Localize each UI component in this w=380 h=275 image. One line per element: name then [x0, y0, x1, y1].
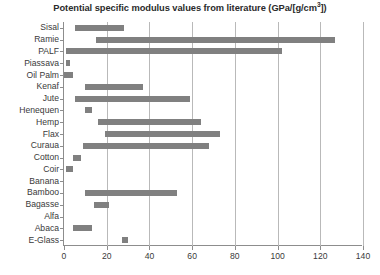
- y-tick-curaua: [60, 146, 64, 147]
- bar-cotton: [73, 155, 82, 161]
- bar-e-glass: [122, 237, 128, 243]
- x-tick-0: [64, 246, 65, 250]
- plot-area: 020406080100120140SisalRamiePALFPiassava…: [63, 22, 362, 246]
- x-axis-label-0: 0: [44, 251, 84, 261]
- x-tick-40: [149, 246, 150, 250]
- gridline-x-100: [278, 22, 279, 246]
- chart-title-tail: ]): [321, 3, 327, 13]
- bar-abaca: [73, 225, 92, 231]
- y-tick-abaca: [60, 228, 64, 229]
- y-axis-label-henequen: Henequen: [3, 105, 59, 115]
- bar-kenaf: [85, 84, 143, 90]
- y-axis-label-kenaf: Kenaf: [3, 81, 59, 91]
- y-axis-label-oil-palm: Oil Palm: [3, 70, 59, 80]
- y-tick-palf: [60, 51, 64, 52]
- bar-hemp: [98, 119, 201, 125]
- y-tick-alfa: [60, 217, 64, 218]
- x-tick-60: [192, 246, 193, 250]
- x-tick-80: [235, 246, 236, 250]
- x-axis-label-60: 60: [172, 251, 212, 261]
- y-axis-label-palf: PALF: [3, 46, 59, 56]
- y-axis-label-hemp: Hemp: [3, 117, 59, 127]
- y-tick-bamboo: [60, 193, 64, 194]
- gridline-x-80: [235, 22, 236, 246]
- bar-coir: [66, 166, 72, 172]
- y-axis-label-bamboo: Bamboo: [3, 187, 59, 197]
- bar-ramie: [96, 37, 335, 43]
- gridline-x-140: [363, 22, 364, 246]
- y-tick-banana: [60, 181, 64, 182]
- bar-flax: [105, 131, 220, 137]
- y-axis-label-bagasse: Bagasse: [3, 199, 59, 209]
- bar-oil-palm: [64, 72, 73, 78]
- bar-curaua: [83, 143, 209, 149]
- y-axis-label-coir: Coir: [3, 164, 59, 174]
- bar-palf: [66, 48, 282, 54]
- y-tick-jute: [60, 99, 64, 100]
- y-tick-bagasse: [60, 205, 64, 206]
- bar-henequen: [85, 107, 91, 113]
- bar-bamboo: [85, 190, 177, 196]
- chart-title: Potential specific modulus values from l…: [0, 3, 380, 13]
- y-tick-sisal: [60, 28, 64, 29]
- chart-container: Potential specific modulus values from l…: [0, 0, 380, 275]
- x-tick-20: [107, 246, 108, 250]
- y-tick-ramie: [60, 40, 64, 41]
- y-axis-label-flax: Flax: [3, 129, 59, 139]
- bar-bagasse: [94, 202, 109, 208]
- y-axis-label-piassava: Piassava: [3, 58, 59, 68]
- gridline-x-120: [320, 22, 321, 246]
- y-axis-label-ramie: Ramie: [3, 34, 59, 44]
- y-axis-label-sisal: Sisal: [3, 22, 59, 32]
- x-tick-120: [320, 246, 321, 250]
- y-tick-piassava: [60, 63, 64, 64]
- x-axis-label-20: 20: [87, 251, 127, 261]
- y-axis-label-jute: Jute: [3, 93, 59, 103]
- bar-piassava: [66, 60, 70, 66]
- y-tick-e-glass: [60, 240, 64, 241]
- y-axis-label-alfa: Alfa: [3, 211, 59, 221]
- x-axis-label-100: 100: [258, 251, 298, 261]
- y-axis-label-curaua: Curaua: [3, 140, 59, 150]
- x-axis-label-140: 140: [343, 251, 380, 261]
- y-tick-henequen: [60, 110, 64, 111]
- y-axis-label-abaca: Abaca: [3, 223, 59, 233]
- y-axis-label-banana: Banana: [3, 176, 59, 186]
- y-tick-coir: [60, 169, 64, 170]
- y-axis-label-cotton: Cotton: [3, 152, 59, 162]
- bar-jute: [75, 96, 190, 102]
- y-axis-label-e-glass: E-Glass: [3, 235, 59, 245]
- x-axis-label-80: 80: [215, 251, 255, 261]
- y-tick-cotton: [60, 158, 64, 159]
- x-tick-100: [278, 246, 279, 250]
- x-axis-label-40: 40: [129, 251, 169, 261]
- bar-sisal: [75, 25, 124, 31]
- y-tick-kenaf: [60, 87, 64, 88]
- x-tick-140: [363, 246, 364, 250]
- y-tick-hemp: [60, 122, 64, 123]
- chart-title-text: Potential specific modulus values from l…: [53, 3, 317, 13]
- x-axis-label-120: 120: [300, 251, 340, 261]
- y-tick-flax: [60, 134, 64, 135]
